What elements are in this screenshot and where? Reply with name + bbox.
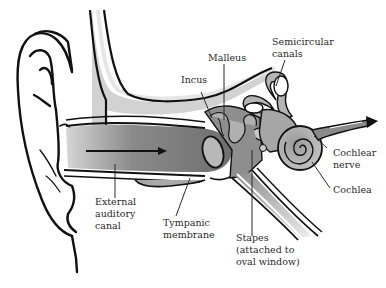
label-text: nerve [333, 159, 376, 171]
label-malleus: Malleus [208, 52, 246, 64]
label-text: Incus [181, 74, 207, 86]
label-incus: Incus [181, 74, 207, 86]
label-tympanic-membrane: Tympanic membrane [163, 217, 215, 241]
eustachian-tube [232, 168, 322, 240]
label-text: canals [272, 48, 334, 60]
label-cochlear-nerve: Cochlear nerve [333, 147, 376, 171]
label-text: Stapes [236, 232, 300, 244]
label-text: Semicircular [272, 36, 334, 48]
label-text: Cochlear [333, 147, 376, 159]
label-semicircular-canals: Semicircular canals [272, 36, 334, 60]
label-stapes: Stapes (attached to oval window) [236, 232, 300, 268]
label-text: membrane [163, 229, 215, 241]
label-cochlea: Cochlea [333, 184, 372, 196]
label-text: Cochlea [333, 184, 372, 196]
label-text: External [95, 196, 136, 208]
label-text: auditory [95, 208, 136, 220]
nerve-direction-arrow-icon [366, 116, 378, 128]
label-external-auditory-canal: External auditory canal [95, 196, 136, 232]
label-text: oval window) [236, 256, 300, 268]
label-text: Malleus [208, 52, 246, 64]
label-text: (attached to [236, 244, 300, 256]
cochlear-nerve [312, 116, 378, 140]
label-text: Tympanic [163, 217, 215, 229]
label-text: canal [95, 220, 136, 232]
